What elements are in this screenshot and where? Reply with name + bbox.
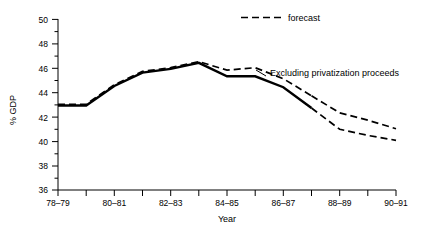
x-axis-ticks [58, 190, 396, 196]
y-tick-label: 48 [39, 39, 49, 49]
leader-line-icon [256, 70, 266, 76]
annotation-label-excluding-privatization: Excluding privatization proceeds [270, 68, 400, 78]
x-tick-label: 90–91 [384, 198, 408, 208]
x-tick-label: 78–79 [46, 198, 70, 208]
x-tick-label: 84–85 [215, 198, 239, 208]
y-tick-label: 50 [39, 15, 49, 25]
x-tick-label: 80–81 [102, 198, 126, 208]
x-tick-label: 86–87 [271, 198, 295, 208]
y-tick-label: 46 [39, 64, 49, 74]
y-tick-label: 36 [39, 185, 49, 195]
legend-label-forecast: forecast [288, 13, 321, 23]
series-including-privatization-forecast [312, 96, 397, 129]
gdp-line-chart: 50 48 46 44 42 40 38 36 78–79 [0, 0, 448, 230]
chart-container: 50 48 46 44 42 40 38 36 78–79 [0, 0, 448, 230]
y-axis-tick-labels: 50 48 46 44 42 40 38 36 [39, 15, 49, 196]
y-tick-label: 42 [39, 113, 49, 123]
y-tick-label: 44 [39, 88, 49, 98]
y-axis-ticks [52, 19, 58, 190]
x-axis-title: Year [218, 214, 236, 224]
x-axis-tick-labels: 78–79 80–81 82–83 84–85 86–87 88–89 90–9… [46, 198, 408, 208]
y-axis-title: % GDP [8, 95, 18, 125]
y-tick-label: 40 [39, 137, 49, 147]
legend-forecast: forecast [241, 13, 321, 23]
y-tick-label: 38 [39, 161, 49, 171]
x-tick-label: 88–89 [328, 198, 352, 208]
annotation-excluding-privatization: Excluding privatization proceeds [256, 68, 400, 78]
x-tick-label: 82–83 [159, 198, 183, 208]
